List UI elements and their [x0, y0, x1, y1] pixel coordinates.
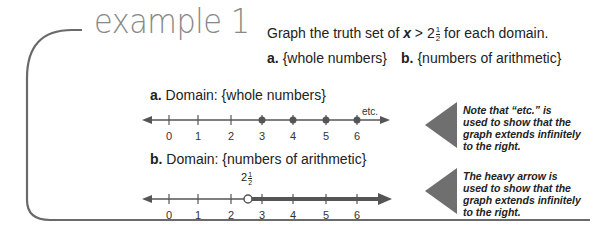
tick-label: 2 [228, 209, 234, 221]
tick-label: 4 [290, 209, 296, 221]
tick-label: 0 [166, 209, 172, 221]
tick-label: 1 [195, 209, 201, 221]
note-b: The heavy arrow is used to show that the… [463, 170, 581, 218]
tick-label: 5 [323, 209, 329, 221]
open-circle [244, 195, 252, 203]
heavy-arrow [378, 193, 392, 205]
tick-label: 3 [259, 209, 265, 221]
tick-label: 6 [354, 209, 360, 221]
pointer-arrow-icon [425, 168, 457, 214]
